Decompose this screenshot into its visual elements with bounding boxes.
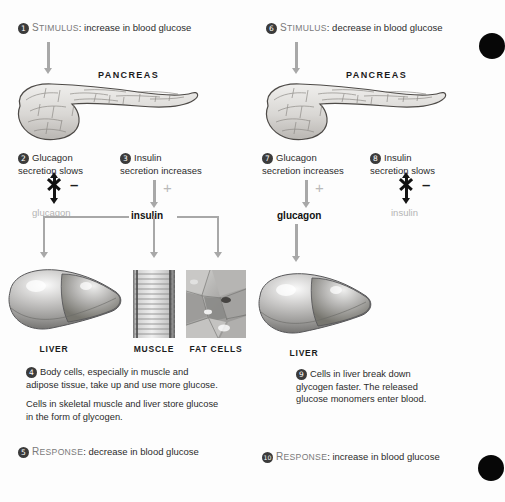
response-keyword: RESPONSE: [276, 452, 327, 462]
step-3-line-1: 3Insulin: [120, 152, 202, 164]
glucagon-to-liver-arrow-head: [292, 256, 300, 262]
step-4-paragraph-2: Cells in skeletal muscle and liver store…: [26, 398, 222, 423]
step-1-stimulus: 1STIMULUS: increase in blood glucose: [18, 22, 191, 34]
plus-sign: +: [315, 180, 324, 195]
target-label-liver: LIVER: [268, 348, 340, 358]
step-number-badge: 9: [296, 369, 307, 380]
step-number-badge: 6: [266, 23, 277, 34]
step-3-hormone-name: Insulin: [134, 152, 161, 163]
step-9-paragraph-1-text: Cells in liver break down glycogen faste…: [296, 369, 426, 404]
stimulus-keyword: STIMULUS: [32, 23, 79, 33]
step-7-line-2: secretion increases: [262, 165, 344, 177]
step-5-response: 5RESPONSE: decrease in blood glucose: [18, 446, 199, 458]
step-number-badge: 5: [18, 447, 29, 458]
step-number-badge: 4: [26, 367, 37, 378]
insulin-bracket-drop-fat: [217, 216, 219, 254]
glucagon-stimulation-arrow-head: [302, 202, 310, 208]
response-text: decrease in blood glucose: [88, 446, 198, 457]
target-label-liver: LIVER: [18, 344, 90, 354]
step-10-response: 10RESPONSE: increase in blood glucose: [262, 451, 440, 463]
step-8-hormone-name: Insulin: [384, 152, 411, 163]
target-arrow-head-liver: [40, 252, 48, 258]
step-9-paragraph-1: 9Cells in liver break down glycogen fast…: [296, 368, 446, 406]
liver-icon: [6, 266, 126, 340]
step-7-line-1: 7Glucagon: [262, 152, 344, 164]
insulin-bracket-right: [177, 216, 219, 218]
insulin-pathway-column: 1STIMULUS: increase in blood glucose PAN…: [0, 0, 248, 502]
pancreas-icon: [258, 78, 448, 146]
pancreas-icon: [10, 78, 200, 146]
inhibition-x-icon: [46, 176, 62, 192]
insulin-stimulation-arrow-shaft: [153, 180, 156, 204]
step-7-glucagon: 7Glucagon secretion increases: [262, 152, 344, 176]
step-2-hormone-name: Glucagon: [32, 152, 73, 163]
response-text: increase in blood glucose: [332, 451, 439, 462]
stimulus-arrow-head: [44, 68, 52, 74]
minus-sign: –: [70, 177, 78, 192]
target-label-muscle: MUSCLE: [125, 344, 183, 354]
step-number-badge: 1: [18, 23, 29, 34]
glucagon-blocked-arrow-head: [50, 198, 58, 204]
glucagon-to-liver-arrow-shaft: [295, 224, 298, 258]
target-arrow-head-fat: [214, 252, 222, 258]
stimulus-keyword: STIMULUS: [280, 23, 327, 33]
plus-sign: +: [163, 180, 172, 195]
step-8-line-1: 8Insulin: [370, 152, 435, 164]
insulin-bracket-drop-muscle: [153, 216, 155, 254]
inhibition-x-icon: [398, 176, 414, 192]
step-7-hormone-name: Glucagon: [276, 152, 317, 163]
insulin-label-active: insulin: [131, 210, 163, 221]
step-3-line-2: secretion increases: [120, 165, 202, 177]
glucagon-pathway-column: 6STIMULUS: decrease in blood glucose PAN…: [248, 0, 496, 502]
minus-sign: –: [422, 177, 430, 192]
response-keyword: RESPONSE: [32, 447, 83, 457]
step-9-description: 9Cells in liver break down glycogen fast…: [296, 368, 446, 406]
insulin-stimulation-arrow-head: [150, 202, 158, 208]
step-number-badge: 10: [262, 452, 273, 463]
liver-icon: [256, 270, 376, 344]
step-3-insulin: 3Insulin secretion increases: [120, 152, 202, 176]
target-arrow-head-muscle: [150, 252, 158, 258]
stimulus-text: decrease in blood glucose: [332, 22, 442, 33]
insulin-blocked-arrow-head: [402, 198, 410, 204]
step-number-badge: 8: [370, 153, 381, 164]
stimulus-text: increase in blood glucose: [84, 22, 191, 33]
stimulus-arrow-shaft: [47, 42, 50, 70]
step-number-badge: 3: [120, 153, 131, 164]
stimulus-arrow-head: [292, 68, 300, 74]
insulin-bracket-drop-liver: [43, 216, 45, 254]
glucagon-stimulation-arrow-shaft: [305, 180, 308, 204]
step-2-line-1: 2Glucagon: [18, 152, 83, 164]
fat-cells-icon: [186, 270, 246, 338]
step-6-stimulus: 6STIMULUS: decrease in blood glucose: [266, 22, 442, 34]
glucagon-label-active: glucagon: [277, 210, 321, 221]
step-4-paragraph-1-text: Body cells, especially in muscle and adi…: [26, 367, 218, 390]
target-label-fat-cells: FAT CELLS: [185, 344, 247, 354]
insulin-label-suppressed: insulin: [391, 207, 418, 218]
stimulus-arrow-shaft: [295, 42, 298, 70]
step-4-paragraph-1: 4Body cells, especially in muscle and ad…: [26, 366, 222, 391]
step-number-badge: 2: [18, 153, 29, 164]
step-number-badge: 7: [262, 153, 273, 164]
insulin-bracket-left: [43, 216, 129, 218]
step-4-description: 4Body cells, especially in muscle and ad…: [26, 366, 222, 423]
muscle-icon: [133, 270, 175, 338]
